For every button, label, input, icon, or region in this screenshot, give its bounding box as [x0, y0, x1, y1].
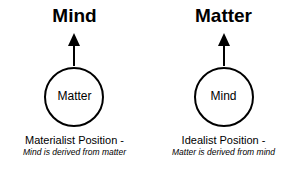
idealist-caption: Idealist Position -	[149, 134, 298, 146]
base-label-mind: Mind	[149, 89, 298, 103]
materialist-subcaption: Mind is derived from matter	[0, 147, 149, 157]
materialist-caption: Materialist Position -	[0, 134, 149, 146]
base-label-matter: Matter	[0, 89, 149, 103]
arrow-up-icon	[68, 33, 80, 46]
idealist-subcaption: Matter is derived from mind	[149, 147, 298, 157]
arrow-up-icon	[218, 33, 230, 46]
idealist-panel: Matter Mind Idealist Position - Matter i…	[149, 0, 298, 170]
derived-label-mind: Mind	[0, 5, 149, 27]
derived-label-matter: Matter	[149, 5, 298, 27]
materialist-panel: Mind Matter Materialist Position - Mind …	[0, 0, 149, 170]
